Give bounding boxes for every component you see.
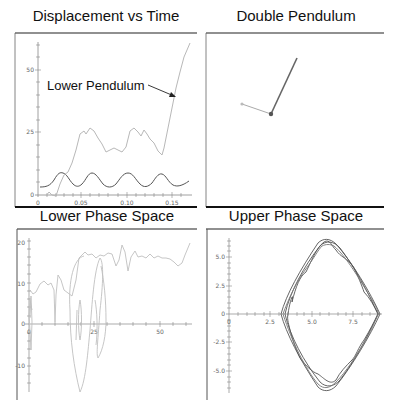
upper-rod [271, 58, 297, 114]
tick-label: 50 [156, 328, 164, 335]
tick-label: 5.0 [307, 318, 317, 325]
tick-label: 10 [17, 280, 25, 287]
tick-label: 25 [26, 128, 34, 135]
tick-label: 7.5 [348, 318, 358, 325]
upper-phase-trajectory [281, 239, 380, 390]
lower-pendulum-annotation: Lower Pendulum [47, 78, 145, 93]
tick-label: 0 [221, 310, 225, 317]
lower-phase-trajectory [30, 243, 190, 322]
pendulum-diagram [206, 33, 384, 207]
tick-label: 50 [26, 66, 34, 73]
tick-label: 0 [227, 318, 231, 325]
tick-label: 5.0 [215, 253, 225, 260]
tick-label: -10 [15, 362, 25, 369]
tick-label: 0.15 [165, 199, 179, 206]
lower-bob [240, 102, 243, 105]
upper-phase-chart: 5.0 2.5 0 -2.5 -5.0 0 2.5 5.0 7.5 [206, 229, 384, 400]
tick-label: 0.05 [74, 199, 88, 206]
tick-label: 0 [30, 191, 34, 198]
tick-label: 2.5 [215, 282, 225, 289]
tick-label: 0 [36, 199, 40, 206]
tick-label: -2.5 [213, 338, 225, 345]
lower-pendulum-line [46, 43, 190, 196]
displacement-chart: 50 25 0 0 0.05 0.10 0.15 Lower Pendulum [15, 33, 197, 207]
figure-canvas: 50 25 0 0 0.05 0.10 0.15 Lower Pendulum [0, 0, 398, 418]
tick-label: 20 [17, 239, 25, 246]
lower-rod [242, 104, 271, 114]
tick-label: 0.10 [120, 199, 134, 206]
lower-phase-chart: 20 10 0 -10 0 25 50 [15, 229, 197, 400]
tick-label: -5.0 [213, 367, 225, 374]
tick-label: 0 [21, 320, 25, 327]
joint-bob [269, 112, 273, 116]
tick-label: 2.5 [265, 318, 275, 325]
